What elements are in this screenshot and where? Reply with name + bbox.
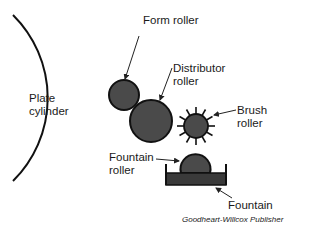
fountain-roller-label: Fountain roller xyxy=(109,151,154,177)
fountain-arrow xyxy=(216,188,232,198)
distributor-roller-label: Distributor roller xyxy=(173,62,225,88)
brush-roller-arrow xyxy=(214,110,236,115)
form-roller xyxy=(109,80,139,110)
brush-roller xyxy=(177,107,215,145)
fountain-roller xyxy=(181,154,211,173)
fountain-roller-arrow xyxy=(156,159,179,161)
fountain-label: Fountain xyxy=(228,199,273,212)
plate-cylinder-label: Plate cylinder xyxy=(29,92,69,118)
form-roller-label: Form roller xyxy=(143,14,199,27)
distributor-roller xyxy=(130,100,172,142)
distributor-roller-arrow xyxy=(160,68,172,100)
publisher-credit: Goodheart-Willcox Publisher xyxy=(182,215,283,224)
form-roller-arrow xyxy=(125,36,139,79)
brush-roller-label: Brush roller xyxy=(237,104,267,130)
